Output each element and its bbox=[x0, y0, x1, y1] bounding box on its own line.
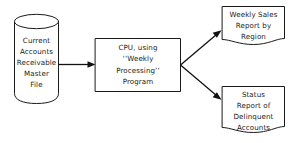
master-file-line-5: File bbox=[30, 80, 42, 89]
report-sales-line-3: Region bbox=[241, 32, 266, 41]
connector-master-file-to-cpu-arrowhead bbox=[88, 61, 96, 68]
report-status-line-3: Delinquent bbox=[234, 112, 274, 121]
report-status-line-4: Accounts bbox=[237, 123, 270, 132]
connector-cpu-to-status-report-line bbox=[181, 65, 217, 96]
node-cpu-process[interactable]: CPU, using ‘‘Weekly Processing’’ Program bbox=[96, 39, 181, 92]
flowchart-canvas: Current Accounts Receivable Master File … bbox=[0, 0, 293, 143]
connector-cpu-to-sales-report bbox=[181, 30, 222, 65]
connector-cpu-to-sales-report-line bbox=[181, 35, 217, 66]
cpu-process-line-1: CPU, using bbox=[118, 43, 157, 52]
master-file-line-4: Master bbox=[24, 69, 49, 78]
master-file-cylinder-top bbox=[15, 14, 59, 28]
node-report-status[interactable]: Status Report of Delinquent Accounts bbox=[223, 87, 285, 133]
node-master-file[interactable]: Current Accounts Receivable Master File bbox=[15, 14, 59, 103]
connector-master-file-to-cpu bbox=[59, 61, 96, 68]
master-file-line-1: Current bbox=[23, 36, 50, 45]
cpu-process-line-3: Processing’’ bbox=[116, 66, 160, 75]
master-file-line-2: Accounts bbox=[20, 47, 53, 56]
report-sales-line-2: Report by bbox=[236, 21, 271, 30]
report-status-line-1: Status bbox=[242, 90, 265, 99]
cpu-process-line-4: Program bbox=[123, 77, 154, 86]
node-report-sales[interactable]: Weekly Sales Report by Region bbox=[223, 7, 285, 45]
master-file-line-3: Receivable bbox=[17, 58, 57, 67]
report-status-line-2: Report of bbox=[237, 101, 271, 110]
flowchart-svg: Current Accounts Receivable Master File … bbox=[0, 0, 293, 143]
report-sales-line-1: Weekly Sales bbox=[230, 10, 278, 19]
connector-cpu-to-status-report bbox=[181, 65, 222, 100]
cpu-process-line-2: ‘‘Weekly bbox=[123, 54, 154, 63]
